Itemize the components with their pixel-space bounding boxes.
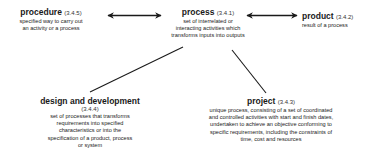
node-title: product (3.4.2) xyxy=(302,11,372,22)
node-description: result of a process xyxy=(302,22,372,29)
node-ref: (3.4.1) xyxy=(217,10,234,16)
node-process: process (3.4.1) set of interrelated or i… xyxy=(158,7,258,40)
node-design-and-development: design and development (3.4.4) set of pr… xyxy=(30,96,150,149)
line-process-design xyxy=(90,47,183,92)
node-description: unique process, consisting of a set of c… xyxy=(191,107,351,143)
node-ref: (3.4.4) xyxy=(30,106,150,113)
node-title: process (3.4.1) xyxy=(158,7,258,18)
node-ref: (3.4.3) xyxy=(278,99,295,105)
node-product: product (3.4.2) result of a process xyxy=(302,11,372,29)
node-title: procedure (3.4.5) xyxy=(10,7,92,18)
node-description: specified way to carry out an activity o… xyxy=(10,18,92,32)
node-project: project (3.4.3) unique process, consisti… xyxy=(191,96,351,143)
node-ref: (3.4.2) xyxy=(336,14,353,20)
node-description: set of interrelated or interacting activ… xyxy=(158,18,258,40)
node-description: set of processes that transforms require… xyxy=(30,113,150,149)
line-process-project xyxy=(232,50,266,93)
node-title: design and development xyxy=(30,96,150,106)
node-procedure: procedure (3.4.5) specified way to carry… xyxy=(10,7,92,32)
node-ref: (3.4.5) xyxy=(64,10,81,16)
node-title: project (3.4.3) xyxy=(191,96,351,107)
